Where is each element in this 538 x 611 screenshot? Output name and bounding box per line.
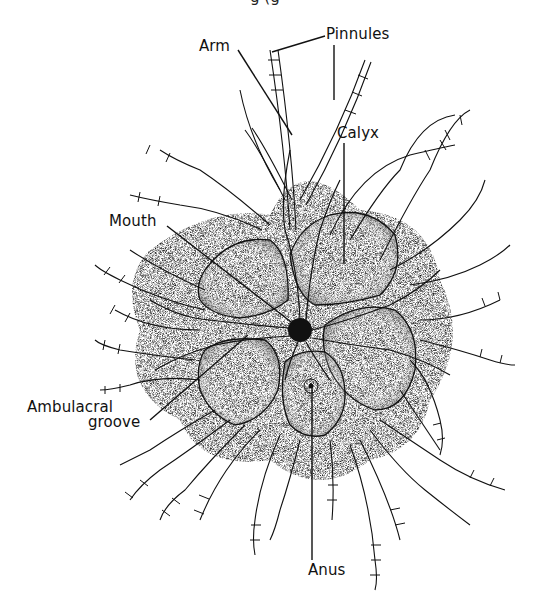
label-groove: groove (88, 415, 140, 430)
label-calyx: Calyx (337, 126, 379, 141)
pinnules-leader-a (272, 36, 325, 52)
label-pinnules: Pinnules (326, 27, 389, 42)
label-anus: Anus (308, 563, 346, 578)
crinoid-illustration (0, 0, 538, 611)
label-mouth: Mouth (109, 214, 157, 229)
label-arm: Arm (199, 39, 230, 54)
